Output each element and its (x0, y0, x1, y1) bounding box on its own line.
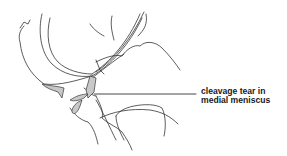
annotation-label-line2: medial meniscus (201, 96, 270, 105)
knee-diagram: cleavage tear in medial meniscus (0, 0, 287, 156)
anatomy-drawing (0, 0, 287, 156)
